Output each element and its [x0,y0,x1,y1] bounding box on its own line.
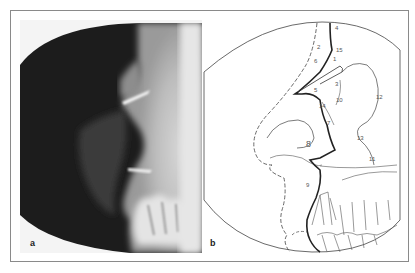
field-boundary [204,22,400,252]
teeth-outline [312,192,397,252]
xray-image [20,20,202,253]
landmark-15: 15 [336,47,343,53]
landmark-11: 11 [369,156,376,162]
landmark-6: 6 [314,58,318,64]
panel-b-tracing: 4 2 15 6 1 3 5 10 12 14 7 13 8 11 9 b [202,20,402,253]
panel-a-radiograph: a [20,20,202,253]
landmark-7: 7 [327,120,331,126]
landmark-5: 5 [314,87,318,93]
tracing-diagram: 4 2 15 6 1 3 5 10 12 14 7 13 8 11 9 [202,20,402,253]
landmark-13: 13 [357,135,364,141]
landmark-8: 8 [306,139,311,149]
landmark-9: 9 [306,182,310,188]
panel-b-label: b [210,238,216,248]
landmark-3: 3 [335,81,339,87]
landmark-14: 14 [319,103,326,109]
landmark-10: 10 [336,97,343,103]
panel-a-label: a [30,238,35,248]
landmark-4: 4 [335,25,339,31]
landmark-1: 1 [333,56,337,62]
landmark-2: 2 [317,44,321,50]
landmark-12: 12 [376,94,383,100]
